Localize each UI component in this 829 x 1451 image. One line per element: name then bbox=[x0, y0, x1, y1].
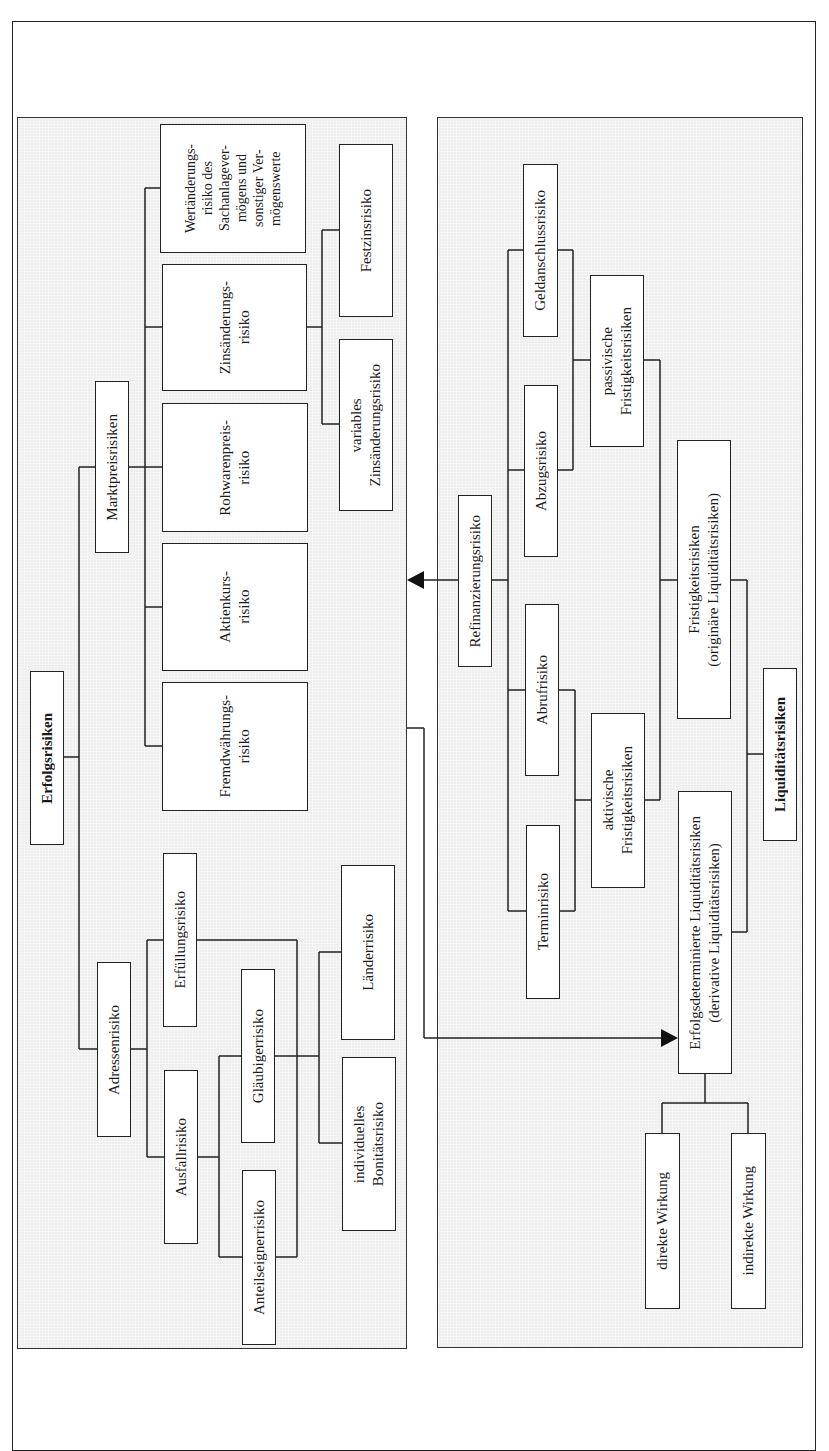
node-marktpreisrisiken: Marktpreisrisiken bbox=[95, 381, 129, 553]
node-anteilseignerrisiko: Anteilseignerrisiko bbox=[242, 1170, 276, 1345]
node-label: Länderrisiko bbox=[359, 914, 378, 991]
node-label: Marktpreisrisiken bbox=[103, 414, 122, 521]
node-label: Festzinsrisiko bbox=[357, 189, 376, 272]
node-glaeubigerrisiko: Gläubigerrisiko bbox=[241, 969, 275, 1143]
node-passivische-fristigkeitsrisiken: passivische Fristigkeitsrisiken bbox=[590, 275, 644, 447]
node-erfuellungsrisiko: Erfüllungsrisiko bbox=[163, 853, 197, 1027]
node-label: Aktienkurs- risiko bbox=[216, 571, 254, 643]
node-laenderrisiko: Länderrisiko bbox=[341, 865, 395, 1040]
node-label: aktivische Fristigkeitsrisiken bbox=[599, 746, 637, 854]
node-refinanzierungsrisiko: Refinanzierungsrisiko bbox=[458, 495, 492, 667]
node-bonitaetsrisiko: individuelles Bonitätsrisiko bbox=[342, 1057, 396, 1231]
node-label: Anteilseignerrisiko bbox=[250, 1200, 269, 1315]
node-label: Abzugsrisiko bbox=[532, 431, 551, 511]
node-label: Geldanschlussrisiko bbox=[531, 190, 550, 311]
node-label: Ausfallrisiko bbox=[172, 1118, 191, 1196]
node-zinsaenderungsrisiko: Zinsänderungs- risiko bbox=[162, 264, 307, 391]
node-fristigkeitsrisiken: Fristigkeitsrisiken (originäre Liquiditä… bbox=[677, 440, 731, 719]
node-fremdwaehrungsrisiko: Fremdwährungs- risiko bbox=[162, 682, 308, 811]
node-aktienkursrisiko: Aktienkurs- risiko bbox=[162, 543, 308, 671]
node-label: Gläubigerrisiko bbox=[249, 1009, 268, 1103]
node-label: Fremdwährungs- risiko bbox=[216, 695, 254, 797]
node-terminrisiko: Terminrisiko bbox=[526, 825, 560, 999]
node-label: Zinsänderungs- risiko bbox=[216, 281, 254, 374]
node-festzinsrisiko: Festzinsrisiko bbox=[339, 144, 393, 317]
node-geldanschlussrisiko: Geldanschlussrisiko bbox=[523, 164, 558, 337]
node-adressenrisiko: Adressenrisiko bbox=[97, 962, 131, 1137]
node-label: Erfüllungsrisiko bbox=[171, 891, 190, 989]
arrowhead-left bbox=[407, 571, 424, 589]
node-label: Refinanzierungsrisiko bbox=[466, 515, 485, 647]
node-label: Erfolgsdeterminierte Liquiditätsrisiken … bbox=[686, 816, 724, 1050]
node-indirekte-wirkung: indirekte Wirkung bbox=[731, 1133, 766, 1309]
node-label: Adressenrisiko bbox=[105, 1005, 124, 1095]
node-label: Liquiditätsrisiken bbox=[771, 697, 790, 812]
node-label: individuelles Bonitätsrisiko bbox=[350, 1102, 388, 1186]
node-label: Terminrisiko bbox=[534, 873, 553, 950]
node-erfolgsrisiken: Erfolgsrisiken bbox=[30, 671, 64, 845]
node-direkte-wirkung: direkte Wirkung bbox=[645, 1133, 680, 1309]
node-wertaenderungsrisiko: Wertänderungs- risiko des Sachanlagever-… bbox=[160, 124, 306, 253]
node-abrufrisiko: Abrufrisiko bbox=[525, 604, 559, 776]
node-label: Erfolgsrisiken bbox=[38, 713, 57, 804]
node-label: Wertänderungs- risiko des Sachanlagever-… bbox=[182, 144, 284, 233]
node-abzugsrisiko: Abzugsrisiko bbox=[524, 385, 558, 557]
node-liquiditaetsrisiken: Liquiditätsrisiken bbox=[763, 668, 797, 841]
node-aktivische-fristigkeitsrisiken: aktivische Fristigkeitsrisiken bbox=[591, 713, 645, 888]
node-label: direkte Wirkung bbox=[653, 1172, 672, 1270]
node-ausfallrisiko: Ausfallrisiko bbox=[164, 1070, 198, 1244]
arrowhead-right bbox=[661, 1029, 678, 1047]
node-variables-zinsaenderungsrisiko: variables Zinsänderungsrisiko bbox=[339, 339, 393, 511]
node-label: Abrufrisiko bbox=[533, 655, 552, 725]
node-label: Rohwarenpreis- risiko bbox=[216, 420, 254, 516]
node-erfolgsdeterminierte-liquiditaetsrisiken: Erfolgsdeterminierte Liquiditätsrisiken … bbox=[678, 791, 732, 1074]
node-rohwarenpreisrisiko: Rohwarenpreis- risiko bbox=[162, 403, 308, 532]
node-label: Fristigkeitsrisiken (originäre Liquiditä… bbox=[685, 493, 723, 667]
node-label: indirekte Wirkung bbox=[739, 1166, 758, 1276]
node-label: passivische Fristigkeitsrisiken bbox=[598, 307, 636, 415]
node-label: variables Zinsänderungsrisiko bbox=[347, 364, 385, 486]
